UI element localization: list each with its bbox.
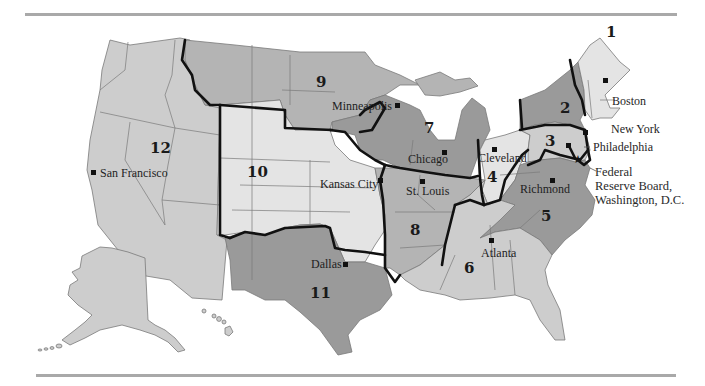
svg-text:Atlanta: Atlanta	[481, 246, 517, 260]
city-san-francisco[interactable]: San Francisco	[91, 166, 168, 180]
district-4-number: 4	[487, 168, 497, 186]
city-new-york[interactable]: New York	[583, 122, 660, 136]
svg-text:Minneapolis: Minneapolis	[332, 99, 392, 113]
district-3-number: 3	[545, 132, 555, 150]
city-minneapolis[interactable]: Minneapolis	[332, 99, 400, 113]
svg-text:Chicago: Chicago	[408, 152, 448, 166]
federal-reserve-map: 1 2 3 4 5 6 7 8 9 10 11 12 Boston New Yo…	[0, 0, 705, 386]
svg-text:Dallas: Dallas	[311, 257, 342, 271]
aleutian-islands	[38, 344, 62, 351]
svg-text:Kansas City: Kansas City	[320, 177, 378, 191]
district-12-number: 12	[150, 139, 171, 157]
district-11-number: 11	[310, 284, 331, 302]
svg-text:San Francisco: San Francisco	[100, 166, 168, 180]
city-chicago[interactable]: Chicago	[408, 150, 448, 166]
district-9-number: 9	[316, 73, 326, 91]
svg-text:St. Louis: St. Louis	[406, 184, 450, 198]
hawaii-region[interactable]	[202, 309, 233, 336]
svg-text:Boston: Boston	[612, 94, 646, 108]
district-7-number: 7	[424, 119, 434, 137]
city-kansas-city[interactable]: Kansas City	[320, 177, 383, 191]
svg-text:Reserve Board,: Reserve Board,	[595, 179, 672, 193]
svg-text:Washington, D.C.: Washington, D.C.	[595, 193, 684, 207]
star-icon: ★	[573, 153, 583, 166]
district-9-upper-michigan[interactable]	[415, 72, 478, 96]
district-2-number: 2	[560, 99, 570, 117]
svg-text:Cleveland: Cleveland	[478, 151, 527, 165]
district-10-number: 10	[247, 163, 268, 181]
svg-text:Philadelphia: Philadelphia	[593, 140, 654, 154]
district-6-number: 6	[464, 259, 474, 277]
svg-text:Richmond: Richmond	[520, 182, 570, 196]
district-8-number: 8	[410, 221, 420, 239]
district-1-number: 1	[606, 23, 616, 41]
district-5-number: 5	[541, 207, 551, 225]
svg-text:New York: New York	[611, 122, 660, 136]
svg-text:Federal: Federal	[595, 165, 633, 179]
district-2-region[interactable]	[520, 62, 585, 130]
